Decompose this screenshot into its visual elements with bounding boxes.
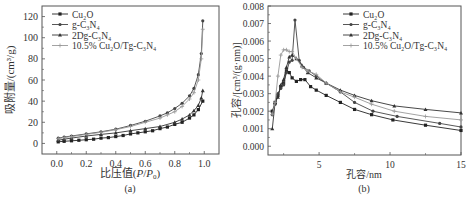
legend-label: g-C₃N₄	[363, 20, 391, 30]
data-point-marker	[370, 113, 373, 116]
chart-panel-b: 0.0000.0010.0020.0030.0040.0050.0060.007…	[230, 2, 466, 196]
data-point-marker	[201, 100, 204, 103]
y-tick-label: 0.005	[243, 54, 265, 64]
data-point-marker	[99, 137, 102, 140]
y-tick-label: 0	[33, 138, 38, 149]
data-point-marker	[196, 103, 200, 107]
legend-marker-icon	[58, 44, 62, 48]
legend-label: g-C₃N₄	[72, 20, 100, 30]
x-axis-label-b: 孔容/nm	[346, 168, 382, 180]
data-point-marker	[288, 71, 291, 74]
x-tick-label: 1.0	[198, 158, 211, 169]
data-point-marker	[197, 108, 200, 111]
legend-marker-icon	[58, 23, 61, 26]
legend-label: Cu₂O	[72, 10, 93, 20]
data-point-marker	[144, 130, 147, 133]
data-point-marker	[166, 125, 169, 128]
data-point-marker	[392, 109, 396, 113]
data-point-marker	[181, 102, 184, 105]
y-tick-label: 0.008	[243, 2, 265, 12]
chart-panel-a: 020406080100120 0.00.20.40.60.81.0 Cu₂Og…	[3, 6, 219, 195]
data-point-marker	[114, 135, 117, 138]
data-point-marker	[325, 94, 328, 97]
data-point-marker	[122, 134, 125, 137]
x-tick-label: 0.8	[169, 158, 182, 169]
x-tick-label: 5	[317, 160, 322, 170]
y-tick-label: 100	[23, 32, 38, 43]
panel-label-b: (b)	[358, 183, 370, 195]
y-tick-label: 0.007	[243, 19, 265, 29]
data-point-marker	[173, 107, 176, 110]
data-point-marker	[293, 18, 296, 21]
legend-entry: 10.5% Cu₂O/Tg-C₃N₄	[343, 41, 447, 51]
y-tick-label: 80	[28, 53, 38, 64]
data-point-marker	[396, 115, 399, 118]
data-point-marker	[201, 89, 205, 93]
panel-label-a: (a)	[124, 183, 135, 195]
data-point-marker	[201, 27, 205, 31]
x-tick-label: 15	[456, 160, 466, 170]
y-tick-label: 0.000	[243, 142, 265, 152]
legend-b: Cu₂Og-C₃N₄2Dg-C₃N₄10.5% Cu₂O/Tg-C₃N₄	[343, 10, 447, 52]
legend-label: Cu₂O	[363, 10, 384, 20]
data-point-marker	[77, 139, 80, 142]
data-point-marker	[136, 131, 139, 134]
y-tick-label: 120	[23, 11, 38, 22]
data-point-marker	[290, 50, 294, 54]
x-tick-label: 0.2	[80, 158, 93, 169]
legend-label: 2Dg-C₃N₄	[363, 31, 402, 41]
data-point-marker	[309, 85, 312, 88]
x-tick-label: 10	[385, 160, 395, 170]
legend-label: 10.5% Cu₂O/Tg-C₃N₄	[363, 41, 447, 51]
data-point-marker	[151, 129, 154, 132]
legend-label: 2Dg-C₃N₄	[72, 31, 111, 41]
data-point-marker	[424, 114, 428, 118]
data-point-marker	[353, 101, 356, 104]
x-axis-label-a: 比压值(P/P0)	[100, 167, 161, 181]
legend-marker-icon	[349, 12, 352, 15]
data-point-marker	[199, 96, 203, 100]
data-point-marker	[85, 138, 88, 141]
y-tick-label: 0.003	[243, 89, 265, 99]
legend-marker-icon	[58, 12, 61, 15]
figure: 020406080100120 0.00.20.40.60.81.0 Cu₂Og…	[0, 0, 466, 201]
data-point-marker	[188, 116, 191, 119]
data-point-marker	[276, 74, 280, 78]
data-point-marker	[201, 19, 204, 22]
series-2dg-c3n4	[270, 53, 463, 130]
data-point-marker	[99, 130, 103, 134]
legend-entry: Cu₂O	[52, 10, 93, 20]
data-point-marker	[438, 122, 441, 125]
legend-entry: 10.5% Cu₂O/Tg-C₃N₄	[52, 41, 156, 51]
y-tick-label: 20	[28, 117, 38, 128]
data-point-marker	[279, 53, 283, 57]
y-axis-label-a: 吸附量/(cm³/g)	[3, 45, 17, 114]
series-line	[272, 55, 461, 129]
y-tick-label: 0.002	[243, 107, 265, 117]
data-point-marker	[424, 124, 427, 127]
data-point-marker	[353, 108, 356, 111]
legend-entry: g-C₃N₄	[52, 20, 100, 30]
data-point-marker	[291, 59, 294, 62]
x-tick-label: 0.0	[51, 158, 64, 169]
data-point-marker	[370, 102, 374, 106]
data-point-marker	[107, 136, 110, 139]
y-tick-label: 0.004	[243, 72, 265, 82]
data-point-marker	[181, 121, 184, 124]
legend-marker-icon	[349, 23, 352, 26]
data-point-marker	[180, 117, 184, 121]
data-point-marker	[192, 113, 195, 116]
data-point-marker	[295, 80, 298, 83]
legend-marker-icon	[349, 44, 353, 48]
y-tick-label: 40	[28, 96, 38, 107]
y-tick-label: 0.006	[243, 37, 265, 47]
data-point-marker	[291, 76, 294, 79]
legend-label: 10.5% Cu₂O/Tg-C₃N₄	[72, 41, 156, 51]
legend-entry: Cu₂O	[343, 10, 384, 20]
data-point-marker	[459, 129, 462, 132]
data-point-marker	[459, 125, 462, 128]
data-point-marker	[92, 138, 95, 141]
data-point-marker	[391, 118, 394, 121]
y-axis-ticks-b: 0.0000.0010.0020.0030.0040.0050.0060.007…	[243, 2, 271, 152]
y-tick-label: 0.001	[243, 124, 265, 134]
